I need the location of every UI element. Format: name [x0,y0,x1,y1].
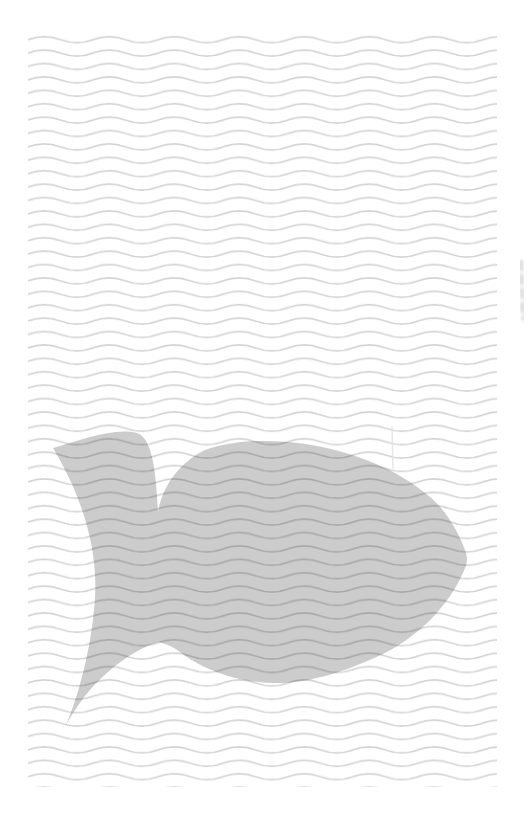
scan-scratch-artifact [392,427,393,468]
illustration-canvas [0,0,531,829]
scan-smudge-artifact [521,262,523,318]
scanned-page [0,0,531,829]
